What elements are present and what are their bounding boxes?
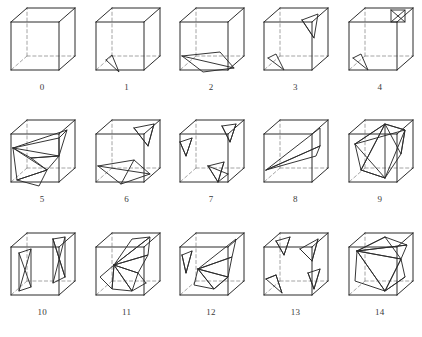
cube-label: 0 [40,83,45,92]
visible-edges [180,8,244,70]
cube-label: 9 [377,195,382,204]
visible-edges [11,120,75,182]
cube-cell: 8 [253,112,337,224]
hidden-edges [96,8,160,70]
hidden-edges [11,8,75,70]
cube-cell: 10 [0,225,84,337]
cube-figure [88,225,166,309]
cube-label: 13 [291,308,300,317]
triangulation [182,52,234,72]
cube-figure [172,225,250,309]
cube-cell: 6 [84,112,168,224]
cube-figure [256,112,334,196]
cube-figure [341,0,419,84]
triangulation [106,55,119,72]
cube-figure [3,0,81,84]
cube-label: 14 [375,308,384,317]
hidden-edges [180,8,244,70]
cube-figure [3,225,81,309]
cube-grid: 01234567891011121314 [0,0,422,337]
hidden-edges [11,120,75,182]
cube-figure [88,0,166,84]
triangulation [100,237,150,291]
cube-label: 6 [124,195,129,204]
hidden-edges [264,8,328,70]
cube-cell: 9 [338,112,422,224]
visible-edges [264,8,328,70]
cube-label: 3 [293,83,298,92]
cube-label: 1 [124,83,129,92]
cube-label: 5 [40,195,45,204]
cube-label: 7 [209,195,214,204]
cube-cell: 0 [0,0,84,112]
cube-cell: 13 [253,225,337,337]
cube-figure [341,112,419,196]
cube-figure [341,225,419,309]
cube-cell: 1 [84,0,168,112]
cube-cell: 14 [338,225,422,337]
cube-label: 2 [209,83,214,92]
hidden-edges [96,120,160,182]
visible-edges [96,120,160,182]
cube-label: 12 [206,308,215,317]
hidden-edges [349,8,413,70]
visible-edges [11,8,75,70]
cube-cell: 2 [169,0,253,112]
cube-figure [3,112,81,196]
cube-cell: 12 [169,225,253,337]
cube-figure [172,112,250,196]
cube-cell: 4 [338,0,422,112]
cube-label: 4 [377,83,382,92]
triangulation [19,237,65,291]
cube-label: 11 [122,308,131,317]
visible-edges [349,8,413,70]
visible-edges [96,8,160,70]
cube-figure [256,0,334,84]
cube-cell: 7 [169,112,253,224]
cube-figure [88,112,166,196]
cube-cell: 5 [0,112,84,224]
cube-label: 8 [293,195,298,204]
cube-label: 10 [37,308,46,317]
cube-figure [256,225,334,309]
cube-cell: 11 [84,225,168,337]
cube-figure [172,0,250,84]
cube-cell: 3 [253,0,337,112]
